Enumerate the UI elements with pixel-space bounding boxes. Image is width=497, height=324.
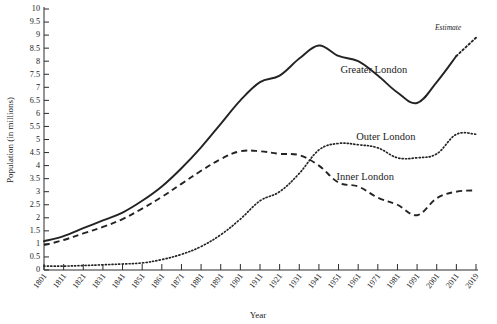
- x-tick-label: 1831: [90, 272, 107, 290]
- y-tick-label: 5: [36, 135, 40, 144]
- y-axis-ticks: 109.598.587.576.565.554.543.532.521.510.…: [30, 4, 49, 274]
- x-tick-label: 1941: [306, 272, 323, 290]
- y-tick-label: 6.5: [30, 96, 40, 105]
- population-line-chart: 109.598.587.576.565.554.543.532.521.510.…: [0, 0, 497, 324]
- y-tick-label: 3.5: [30, 174, 40, 183]
- x-axis-title: Year: [250, 310, 267, 320]
- x-tick-label: 1991: [404, 272, 421, 290]
- y-tick-label: 10: [32, 4, 40, 13]
- x-tick-label: 1961: [346, 272, 363, 290]
- y-tick-label: 7.5: [30, 70, 40, 79]
- x-tick-label: 2001: [424, 272, 441, 290]
- y-tick-label: 6: [36, 109, 40, 118]
- x-tick-label: 1911: [248, 272, 265, 290]
- series-label-greater-london: Greater London: [341, 64, 409, 75]
- y-tick-label: 8.5: [30, 44, 40, 53]
- y-tick-label: 1.5: [30, 226, 40, 235]
- x-axis-ticks: 1801181118211831184118511861187118811891…: [31, 264, 480, 290]
- x-tick-label: 1861: [149, 272, 166, 290]
- x-tick-label: 1891: [208, 272, 225, 290]
- series-layer: [44, 38, 476, 266]
- series-annotations: Greater LondonInner LondonOuter London: [337, 64, 417, 182]
- x-tick-label: 1951: [326, 272, 343, 290]
- x-tick-label: 2011: [444, 272, 461, 290]
- y-tick-label: 7: [36, 83, 40, 92]
- x-tick-label: 1881: [188, 272, 205, 290]
- chart-canvas: 109.598.587.576.565.554.543.532.521.510.…: [0, 0, 497, 324]
- x-tick-label: 1841: [110, 272, 127, 290]
- y-axis-title: Population (in millions): [5, 97, 15, 183]
- x-tick-label: 1821: [71, 272, 88, 290]
- x-tick-label: 1801: [31, 272, 48, 290]
- y-tick-label: 2: [36, 213, 40, 222]
- series-line-outer-london: [44, 133, 476, 266]
- series-label-inner-london: Inner London: [337, 171, 395, 182]
- x-tick-label: 1811: [51, 272, 68, 290]
- estimate-annotation: Estimate: [434, 23, 462, 32]
- series-label-outer-london: Outer London: [356, 131, 416, 142]
- y-tick-label: 5.5: [30, 122, 40, 131]
- x-tick-label: 1981: [385, 272, 402, 290]
- x-tick-label: 1851: [130, 272, 147, 290]
- y-tick-label: 9: [36, 30, 40, 39]
- series-line-inner-london: [44, 150, 476, 245]
- x-tick-label: 1971: [365, 272, 382, 290]
- x-tick-label: 1871: [169, 272, 186, 290]
- estimate-segment-line: [456, 38, 476, 56]
- y-tick-label: 8: [36, 57, 40, 66]
- y-tick-label: 9.5: [30, 17, 40, 26]
- y-tick-label: 4: [36, 161, 40, 170]
- x-tick-label: 1931: [287, 272, 304, 290]
- y-tick-label: 0.5: [30, 252, 40, 261]
- x-tick-label: 1901: [228, 272, 245, 290]
- y-tick-label: 3: [36, 187, 40, 196]
- y-tick-label: 4.5: [30, 148, 40, 157]
- x-tick-label: 1921: [267, 272, 284, 290]
- x-tick-label: 2019: [463, 272, 480, 290]
- y-tick-label: 2.5: [30, 200, 40, 209]
- y-tick-label: 1: [36, 239, 40, 248]
